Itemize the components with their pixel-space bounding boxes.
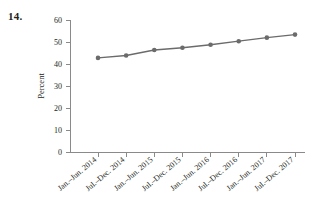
- x-axis-ticks: [98, 153, 295, 158]
- y-tick-label-50: 50: [54, 38, 62, 47]
- data-point-7: [293, 32, 298, 37]
- data-point-2: [152, 48, 157, 53]
- data-point-4: [208, 42, 213, 47]
- x-axis-tick-labels: Jan.–Jun. 2014Jul.–Dec. 2014Jan.–Jun. 20…: [56, 155, 295, 193]
- y-tick-label-60: 60: [54, 16, 62, 25]
- figure-container: 14. 0 10 20 30 40 50: [0, 0, 319, 220]
- data-point-0: [96, 56, 101, 61]
- y-axis-tick-labels: 0 10 20 30 40 50 60: [54, 16, 62, 157]
- data-point-5: [236, 39, 241, 44]
- y-axis-ticks: [66, 21, 71, 153]
- data-point-1: [124, 53, 129, 58]
- y-tick-label-40: 40: [54, 60, 62, 69]
- line-chart: 0 10 20 30 40 50 60 Percent Jan.–Jun. 20…: [0, 0, 319, 220]
- y-axis-title: Percent: [36, 73, 46, 99]
- y-tick-label-30: 30: [54, 82, 62, 91]
- y-tick-label-10: 10: [54, 126, 62, 135]
- data-point-3: [180, 45, 185, 50]
- data-point-6: [265, 35, 270, 40]
- series-group: [96, 32, 298, 60]
- chart-svg: 0 10 20 30 40 50 60 Percent Jan.–Jun. 20…: [0, 0, 319, 220]
- y-tick-label-0: 0: [58, 148, 62, 157]
- y-tick-label-20: 20: [54, 104, 62, 113]
